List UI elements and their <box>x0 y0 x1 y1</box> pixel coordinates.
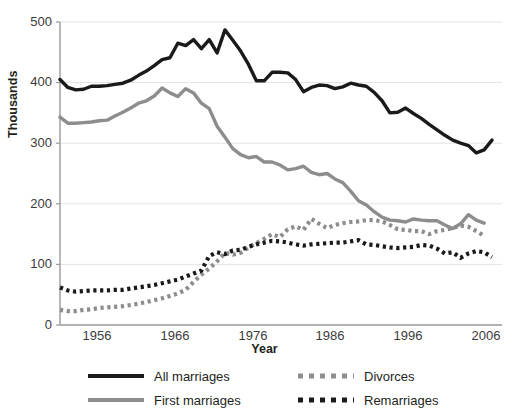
legend-label-remarriages: Remarriages <box>364 393 438 408</box>
legend-label-first-marriages: First marriages <box>154 393 241 408</box>
legend-column-left: All marriages First marriages <box>88 364 241 412</box>
legend-swatch-divorces <box>298 369 354 383</box>
legend-swatch-all-marriages <box>88 369 144 383</box>
legend-item-first-marriages[interactable]: First marriages <box>88 388 241 412</box>
gridlines <box>60 22 502 325</box>
legend-item-remarriages[interactable]: Remarriages <box>298 388 438 412</box>
plot-area <box>0 0 529 419</box>
legend-label-all-marriages: All marriages <box>154 369 230 384</box>
legend-item-divorces[interactable]: Divorces <box>298 364 438 388</box>
legend-column-right: Divorces Remarriages <box>298 364 438 412</box>
series-remarriages <box>60 240 492 292</box>
series-layer <box>60 30 492 311</box>
axis-lines <box>56 22 60 325</box>
legend: All marriages First marriages Divorces R… <box>0 364 529 416</box>
legend-label-divorces: Divorces <box>364 369 415 384</box>
series-divorces <box>60 219 484 311</box>
marriage-divorce-line-chart: Thousands 500 400 300 200 100 0 1956 196… <box>0 0 529 419</box>
series-first-marriages <box>60 88 484 229</box>
legend-item-all-marriages[interactable]: All marriages <box>88 364 241 388</box>
series-all-marriages <box>60 30 492 153</box>
legend-swatch-first-marriages <box>88 393 144 407</box>
legend-swatch-remarriages <box>298 393 354 407</box>
